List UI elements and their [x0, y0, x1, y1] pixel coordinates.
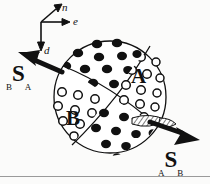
region-label-b: B	[66, 108, 80, 129]
vector-label-b-a: BSA	[6, 62, 31, 85]
vector-b-a-pre-subscript: B	[6, 82, 12, 92]
axis-label-east: e	[73, 16, 78, 27]
vector-b-a-post-subscript: A	[25, 82, 32, 92]
bottom-horizontal-rule	[0, 176, 210, 177]
axis-label-north: n	[62, 2, 68, 13]
region-label-a: A	[131, 66, 146, 87]
vector-label-a-b: ASB	[158, 148, 183, 171]
vector-b-a-symbol: S	[12, 61, 25, 86]
vector-a-b-symbol: S	[165, 147, 178, 172]
figure-root: n e d BSA ASB A B	[0, 0, 210, 184]
vector-a-b-arrow	[150, 122, 200, 145]
axis-label-down: d	[44, 45, 50, 56]
